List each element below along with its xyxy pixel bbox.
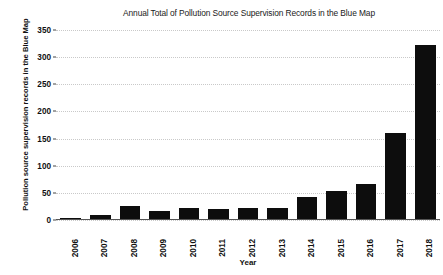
y-tick-label: 50 [42, 188, 51, 197]
y-tick-label: 250 [37, 80, 51, 89]
y-axis-label: Pollution source supervision records in … [21, 15, 30, 215]
y-tick-label: 150 [37, 134, 51, 143]
x-tick-label: 2017 [396, 239, 405, 273]
x-tick-label: 2006 [71, 239, 80, 273]
bar-chart: Annual Total of Pollution Source Supervi… [0, 0, 443, 275]
bar [415, 45, 436, 220]
y-tick-label: 0 [46, 216, 51, 225]
x-tick-label: 2012 [248, 239, 257, 273]
bar [356, 184, 377, 220]
gridline [56, 220, 440, 221]
x-tick-label: 2007 [100, 239, 109, 273]
bar [385, 133, 406, 220]
y-tick-label: 100 [37, 161, 51, 170]
x-tick-label: 2014 [307, 239, 316, 273]
plot-area: 050100150200250300350 [56, 30, 440, 220]
y-tick-label: 200 [37, 107, 51, 116]
y-tick-label: 300 [37, 53, 51, 62]
bar [326, 191, 347, 220]
x-tick-label: 2011 [218, 239, 227, 273]
bars-group [56, 30, 440, 220]
x-axis-line [56, 219, 440, 221]
x-tick-label: 2018 [425, 239, 434, 273]
x-tick-label: 2016 [366, 239, 375, 273]
chart-title: Annual Total of Pollution Source Supervi… [55, 8, 443, 18]
x-tick-label: 2013 [278, 239, 287, 273]
bar [297, 197, 318, 220]
x-tick-label: 2015 [337, 239, 346, 273]
x-axis-label: Year [56, 258, 440, 267]
y-tick-label: 350 [37, 26, 51, 35]
x-tick-label: 2008 [130, 239, 139, 273]
x-tick-label: 2009 [159, 239, 168, 273]
x-tick-label: 2010 [189, 239, 198, 273]
x-axis-ticks: 2006200720082009201020112012201320142015… [56, 222, 440, 256]
